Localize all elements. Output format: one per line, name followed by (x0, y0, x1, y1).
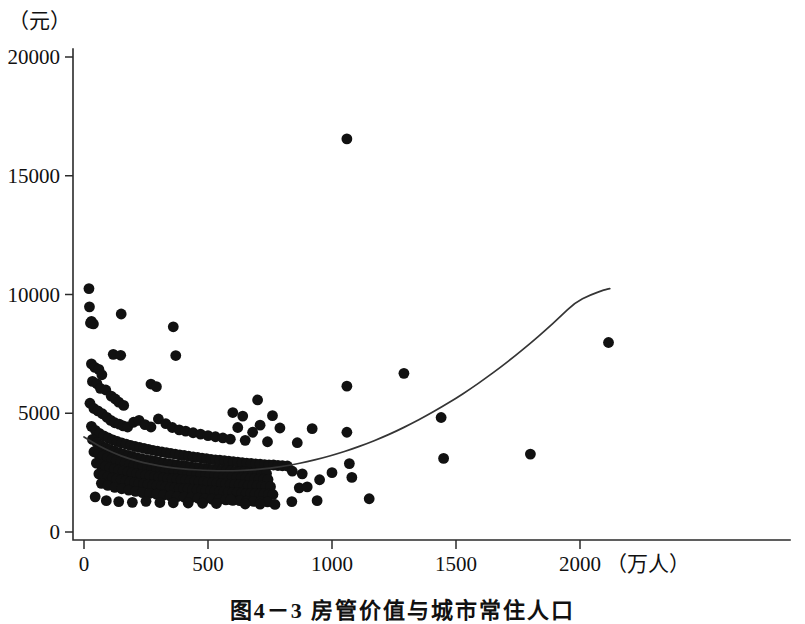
data-point (232, 422, 243, 433)
data-point (84, 301, 95, 312)
data-point (168, 497, 179, 508)
x-axis-unit-label: （万人） (606, 552, 690, 576)
chart-labels: 050001000015000200000500100015002000（元）（… (8, 9, 691, 576)
x-tick-label: 1000 (311, 552, 353, 576)
data-point (327, 467, 338, 478)
data-point (307, 423, 318, 434)
data-point (275, 423, 286, 434)
data-point (255, 499, 266, 510)
data-point (341, 427, 352, 438)
trend-curve-path (84, 289, 610, 471)
data-point (227, 407, 238, 418)
data-point (237, 411, 248, 422)
data-point (116, 309, 127, 320)
data-point (101, 495, 112, 506)
data-point (252, 395, 263, 406)
data-point (287, 466, 298, 477)
scatter-points (84, 134, 614, 510)
figure-caption: 图4－3 房管价值与城市常住人口 (0, 592, 805, 624)
data-point (183, 498, 194, 509)
data-point (270, 499, 281, 510)
x-tick-label: 500 (192, 552, 224, 576)
data-point (364, 493, 375, 504)
data-point (292, 437, 303, 448)
data-point (127, 497, 138, 508)
data-point (168, 321, 179, 332)
data-point (346, 472, 357, 483)
data-point (211, 498, 222, 509)
data-point (151, 381, 162, 392)
data-point (341, 134, 352, 145)
data-point (113, 496, 124, 507)
data-point (115, 350, 126, 361)
y-tick-label: 20000 (8, 45, 61, 69)
data-point (225, 434, 236, 445)
data-point (225, 494, 236, 505)
data-point (85, 318, 96, 329)
y-tick-label: 15000 (8, 164, 61, 188)
data-point (312, 495, 323, 506)
data-point (297, 468, 308, 479)
y-axis-unit-label: （元） (8, 9, 71, 33)
data-point (603, 337, 614, 348)
data-point (314, 474, 325, 485)
y-tick-label: 10000 (8, 283, 61, 307)
data-point (341, 381, 352, 392)
data-point (197, 498, 208, 509)
data-point (240, 435, 251, 446)
data-point (84, 283, 95, 294)
x-tick-label: 2000 (559, 552, 601, 576)
data-point (146, 422, 157, 433)
data-point (302, 481, 313, 492)
data-point (90, 491, 101, 502)
data-point (399, 368, 410, 379)
data-point (438, 453, 449, 464)
x-tick-label: 0 (79, 552, 90, 576)
y-tick-label: 0 (50, 520, 61, 544)
y-tick-label: 5000 (18, 401, 60, 425)
data-point (240, 499, 251, 510)
data-point (344, 458, 355, 469)
data-point (255, 420, 266, 431)
data-point (262, 436, 273, 447)
x-tick-label: 1500 (435, 552, 477, 576)
data-point (118, 400, 129, 411)
trend-curve (84, 289, 610, 471)
data-point (141, 496, 152, 507)
data-point (170, 350, 181, 361)
data-point (286, 496, 297, 507)
data-point (525, 449, 536, 460)
data-point (436, 412, 447, 423)
data-point (267, 410, 278, 421)
data-point (154, 497, 165, 508)
